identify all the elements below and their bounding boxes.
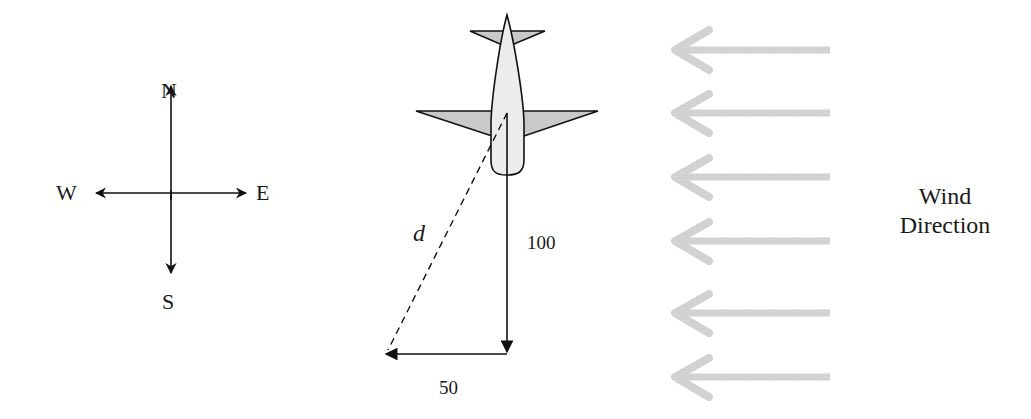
wind-arrow-icon (675, 294, 830, 333)
compass-south-label: S (162, 291, 174, 313)
wind-arrow-icon (675, 358, 830, 397)
compass-rose (96, 86, 246, 273)
wind-arrows (675, 30, 830, 397)
resultant-label: d (413, 221, 425, 245)
wind-direction-label: Wind Direction (870, 182, 1020, 240)
resultant-dashed-line (388, 113, 507, 350)
compass-east-label: E (256, 182, 269, 204)
wind-label-line2: Direction (870, 211, 1020, 240)
wind-arrow-icon (675, 94, 830, 133)
wind-arrow-icon (675, 158, 830, 197)
west-magnitude-label: 50 (439, 378, 458, 397)
south-magnitude-label: 100 (527, 233, 556, 252)
wind-label-line1: Wind (870, 182, 1020, 211)
wind-arrow-icon (675, 222, 830, 261)
vector-diagram (386, 113, 507, 354)
wind-arrow-icon (675, 30, 830, 70)
compass-west-label: W (56, 182, 77, 204)
compass-north-label: N (161, 80, 177, 102)
